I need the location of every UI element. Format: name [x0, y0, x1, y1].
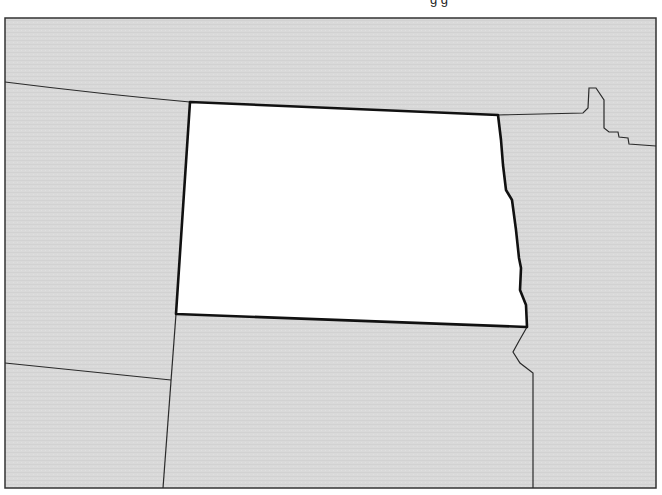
- cropped-caption-text: g g: [430, 0, 448, 7]
- outline-map: [0, 0, 662, 495]
- map-container: g g: [0, 0, 662, 495]
- highlighted-state-north-dakota[interactable]: [176, 102, 527, 327]
